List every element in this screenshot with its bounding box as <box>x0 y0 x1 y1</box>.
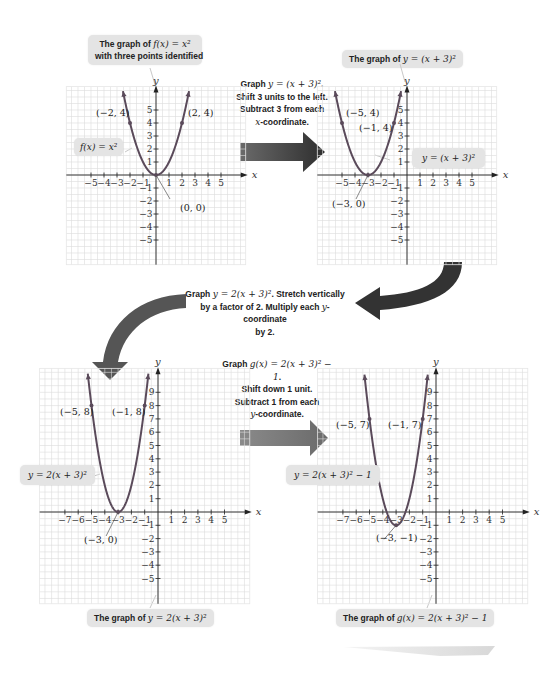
y-tick-label: −2 <box>141 534 154 544</box>
point-label: (−5, 4) <box>346 107 380 118</box>
data-point <box>128 121 132 125</box>
y-tick-label: 1 <box>398 157 404 167</box>
graph-2: xy−5−4−3−2−112345−5−4−3−2−112345 <box>317 75 508 265</box>
x-axis-arrow-icon <box>241 173 248 178</box>
point-label: (−3, 0) <box>332 198 366 209</box>
y-tick-label: 2 <box>149 480 155 490</box>
x-tick-label: 1 <box>417 178 423 188</box>
x-tick-label: −5 <box>85 515 99 525</box>
x-tick-label: −4 <box>98 515 112 525</box>
x-tick-label: −6 <box>72 515 86 525</box>
y-tick-label: −1 <box>419 520 432 530</box>
y-tick-label: 4 <box>398 118 404 128</box>
y-axis-label: y <box>152 75 159 86</box>
x-tick-label: 1 <box>166 178 172 188</box>
arrow-right-icon <box>240 132 325 172</box>
y-tick-label: −5 <box>141 574 155 584</box>
y-tick-label: −1 <box>141 520 154 530</box>
point-label: (−1, 7) <box>388 419 422 430</box>
point-label: (−5, 7) <box>336 419 370 430</box>
y-tick-label: 3 <box>398 131 404 141</box>
data-point <box>340 121 344 125</box>
x-tick-label: −3 <box>111 515 125 525</box>
x-tick-label: 4 <box>205 178 211 188</box>
x-axis-label: x <box>503 169 509 180</box>
curved-arrow-left-icon <box>355 262 462 320</box>
y-axis-label: y <box>403 75 410 86</box>
x-tick-label: 3 <box>192 178 198 188</box>
curve-label-text: y = (x + 3)² <box>422 153 475 163</box>
x-tick-label: 3 <box>443 178 449 188</box>
point-label: (−3, 0) <box>84 534 118 545</box>
y-axis-label: y <box>154 356 161 367</box>
x-axis-arrow-icon <box>245 510 252 515</box>
x-tick-label: 5 <box>500 515 506 525</box>
y-tick-label: −3 <box>141 547 155 557</box>
y-tick-label: −1 <box>390 183 403 193</box>
point-label: (−1, 4) <box>359 122 393 133</box>
curve-label-text: y = 2(x + 3)² − 1 <box>294 470 372 480</box>
x-tick-label: 5 <box>222 515 228 525</box>
y-tick-label: 1 <box>147 157 153 167</box>
y-tick-label: 2 <box>398 144 404 154</box>
y-tick-label: 7 <box>149 414 155 424</box>
y-tick-label: −5 <box>139 235 153 245</box>
y-tick-label: 4 <box>147 118 153 128</box>
y-tick-label: 9 <box>149 387 155 397</box>
data-point <box>180 121 184 125</box>
y-tick-label: 3 <box>427 467 433 477</box>
x-tick-label: −6 <box>350 515 364 525</box>
x-tick-label: −4 <box>97 178 111 188</box>
curved-arrow-down-icon <box>92 294 186 380</box>
x-tick-label: −3 <box>361 178 375 188</box>
x-tick-label: 3 <box>195 515 201 525</box>
x-tick-label: −5 <box>335 178 349 188</box>
y-tick-label: 3 <box>147 131 153 141</box>
graph-1: xy−5−4−3−2−112345−5−4−3−2−112345 <box>66 75 257 265</box>
y-tick-label: −4 <box>141 560 155 570</box>
y-tick-label: −4 <box>390 222 404 232</box>
y-tick-label: 5 <box>427 441 433 451</box>
x-tick-label: −2 <box>125 515 138 525</box>
y-tick-label: −3 <box>390 209 404 219</box>
x-tick-label: −2 <box>374 178 387 188</box>
x-axis-label: x <box>534 506 540 517</box>
y-tick-label: −3 <box>419 547 433 557</box>
y-tick-label: −2 <box>139 196 152 206</box>
y-tick-label: 6 <box>427 427 433 437</box>
x-tick-label: −5 <box>363 515 377 525</box>
x-tick-label: −3 <box>110 178 124 188</box>
y-tick-label: 9 <box>427 387 433 397</box>
y-tick-label: −2 <box>390 196 403 206</box>
x-tick-label: 5 <box>469 178 475 188</box>
x-tick-label: 3 <box>473 515 479 525</box>
curve-label-text: y = 2(x + 3)² <box>28 470 87 480</box>
y-tick-label: 2 <box>427 480 433 490</box>
x-tick-label: 1 <box>168 515 174 525</box>
y-tick-label: −5 <box>419 574 433 584</box>
graph2-curve-label: y = (x + 3)² <box>412 148 485 168</box>
y-tick-label: 6 <box>149 427 155 437</box>
point-label: (0, 0) <box>180 202 206 213</box>
y-tick-label: 1 <box>149 494 155 504</box>
y-tick-label: −2 <box>419 534 432 544</box>
x-tick-label: −5 <box>84 178 98 188</box>
x-axis-arrow-icon <box>523 510 530 515</box>
x-tick-label: 4 <box>208 515 214 525</box>
y-tick-label: −5 <box>390 235 404 245</box>
y-tick-label: 2 <box>147 144 153 154</box>
x-tick-label: 4 <box>486 515 492 525</box>
point-label: (2, 4) <box>188 107 214 118</box>
x-tick-label: 2 <box>182 515 188 525</box>
graph4-curve-label: y = 2(x + 3)² − 1 <box>286 465 380 485</box>
point-label: (−1, 8) <box>112 406 146 417</box>
curve-label-text: f(x) = x² <box>80 142 117 152</box>
x-tick-label: −7 <box>58 515 72 525</box>
x-tick-label: 2 <box>430 178 436 188</box>
x-axis-label: x <box>256 506 262 517</box>
point-label: (−3, −1) <box>376 532 417 543</box>
x-tick-label: −4 <box>348 178 362 188</box>
y-tick-label: 4 <box>149 454 155 464</box>
y-tick-label: −4 <box>419 560 433 570</box>
y-axis-label: y <box>432 356 439 367</box>
